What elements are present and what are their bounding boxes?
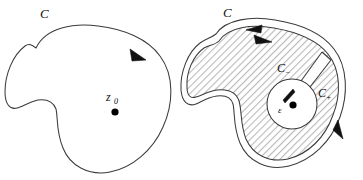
left-contour-curve [5, 25, 171, 173]
left-contour-label: C [40, 6, 49, 21]
c-plus-subscript: + [326, 93, 331, 102]
left-point-subscript: 0 [114, 97, 118, 106]
epsilon-label: ε [278, 105, 282, 115]
left-panel: C z 0 [5, 6, 171, 173]
contour-diagram-svg: C z 0 [0, 0, 363, 180]
right-contour-label: C [223, 5, 232, 20]
arrow-right-down [333, 120, 343, 139]
left-point-label: z [105, 90, 111, 104]
figure-container: C z 0 [0, 0, 363, 180]
right-panel: C C − C + ε [181, 5, 345, 167]
c-minus-subscript: − [285, 68, 290, 77]
left-point-dot [111, 108, 118, 115]
right-point-dot [289, 101, 296, 108]
right-hatched-region [187, 26, 339, 160]
